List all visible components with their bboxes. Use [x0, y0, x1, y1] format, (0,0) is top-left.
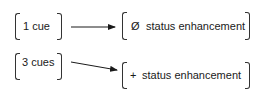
arrow-three-cues-to-plus-enhancement: [71, 62, 117, 70]
edges: [0, 0, 263, 96]
